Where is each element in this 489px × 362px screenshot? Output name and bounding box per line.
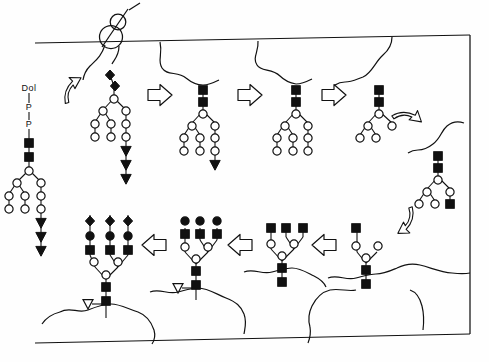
mannose-node	[37, 179, 45, 187]
glcnac-node	[25, 153, 34, 162]
mannose-node	[122, 107, 130, 115]
mannose-node	[5, 205, 13, 213]
mannose-node	[122, 120, 130, 128]
mannose-node	[91, 120, 99, 128]
mannose-node	[292, 110, 300, 118]
mannose-node	[289, 147, 297, 155]
mannose-node	[446, 188, 454, 196]
mannose-node	[289, 134, 297, 142]
mannose-node	[196, 147, 204, 155]
glcnac-node	[299, 224, 308, 233]
mannose-node	[356, 134, 364, 142]
glcnac-node	[292, 98, 301, 107]
mannose-node	[290, 240, 298, 248]
mannose-node	[352, 242, 360, 250]
glcnac-node	[25, 139, 34, 148]
glcnac-node	[375, 98, 384, 107]
glcnac-node	[375, 86, 384, 95]
mannose-node	[91, 133, 99, 141]
glcnac-node	[199, 98, 208, 107]
mannose-node	[122, 133, 130, 141]
mannose-node	[273, 134, 281, 142]
mannose-node	[21, 205, 29, 213]
mannose-node	[211, 134, 219, 142]
mannose-node	[25, 167, 33, 175]
mannose-node	[13, 179, 21, 187]
glcnac-node	[102, 297, 111, 306]
mannose-node	[192, 255, 200, 263]
glcnac-node	[199, 86, 208, 95]
glcnac-node	[362, 280, 371, 289]
glcnac-node	[278, 278, 287, 287]
mannose-node	[110, 95, 118, 103]
mannose-node	[304, 147, 312, 155]
mannose-node	[107, 133, 115, 141]
glcnac-node	[124, 246, 133, 255]
mannose-node	[107, 120, 115, 128]
glcnac-node	[278, 264, 287, 273]
glcnac-node	[282, 224, 291, 233]
mannose-node	[199, 110, 207, 118]
mannose-node	[362, 254, 370, 262]
mannose-node	[5, 192, 13, 200]
mannose-node	[431, 200, 439, 208]
glcnac-node	[267, 224, 276, 233]
glcnac-node	[86, 246, 95, 255]
glcnac-node	[192, 267, 201, 276]
mannose-node	[180, 134, 188, 142]
phosphate-label-1: P	[26, 102, 33, 112]
mannose-node	[388, 122, 396, 130]
glcnac-node	[213, 230, 222, 239]
mannose-node	[181, 243, 189, 251]
mannose-node	[188, 122, 196, 130]
mannose-node	[273, 147, 281, 155]
galactose-node	[181, 217, 189, 225]
glcnac-node	[102, 283, 111, 292]
glcnac-node	[181, 230, 190, 239]
galactose-node	[124, 232, 132, 240]
mannose-node	[180, 147, 188, 155]
glcnac-node	[446, 200, 455, 209]
galactose-node	[86, 232, 94, 240]
mannose-node	[281, 122, 289, 130]
mannose-node	[196, 134, 204, 142]
mannose-node	[211, 147, 219, 155]
glcnac-node	[434, 152, 443, 161]
mannose-node	[278, 252, 286, 260]
mannose-node	[423, 188, 431, 196]
mannose-node	[37, 192, 45, 200]
mannose-node	[375, 110, 383, 118]
figure-background	[0, 0, 489, 362]
mannose-node	[304, 134, 312, 142]
mannose-node	[90, 258, 98, 266]
mannose-node	[114, 258, 122, 266]
galactose-node	[196, 217, 204, 225]
glcnac-node	[192, 281, 201, 290]
mannose-node	[374, 242, 382, 250]
mannose-node	[364, 122, 372, 130]
glcnac-node	[362, 266, 371, 275]
mannose-node	[372, 134, 380, 142]
galactose-node	[213, 217, 221, 225]
glcnac-node	[196, 230, 205, 239]
glcnac-node	[106, 246, 115, 255]
phosphate-label-2: P	[26, 119, 33, 129]
glcnac-node	[434, 164, 443, 173]
mannose-node	[211, 122, 219, 130]
mannose-node	[304, 122, 312, 130]
glcnac-node	[352, 224, 361, 233]
mannose-node	[102, 271, 110, 279]
galactose-node	[106, 232, 114, 240]
pathway-canvas: Dol P P	[0, 0, 489, 362]
mannose-node	[415, 200, 423, 208]
mannose-node	[99, 107, 107, 115]
mannose-node	[204, 243, 212, 251]
dolichol-label: Dol	[21, 83, 36, 93]
mannose-node	[37, 205, 45, 213]
mannose-node	[434, 176, 442, 184]
glycosylation-pathway-figure: Dol P P	[0, 0, 489, 362]
mannose-node	[267, 240, 275, 248]
mannose-node	[21, 192, 29, 200]
glcnac-node	[292, 86, 301, 95]
